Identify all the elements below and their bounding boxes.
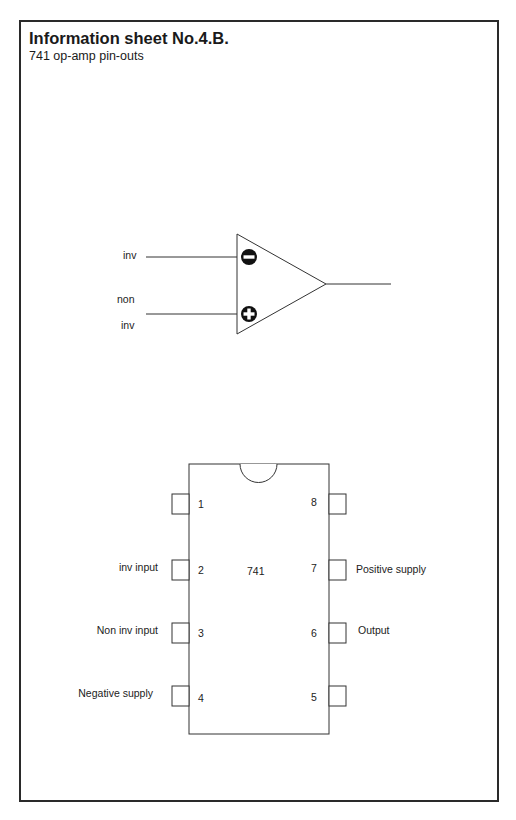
pin-label-4: Negative supply: [78, 687, 153, 699]
pin-label-2: inv input: [119, 561, 158, 573]
inv-label: inv: [123, 249, 137, 261]
opamp-symbol: [146, 234, 391, 334]
pin-number-8: 8: [311, 496, 317, 508]
chip-name: 741: [247, 565, 265, 577]
pin-number-5: 5: [311, 691, 317, 703]
pin-number-1: 1: [198, 498, 204, 510]
noninv-label: inv: [121, 319, 135, 331]
pin-label-3: Non inv input: [97, 624, 158, 636]
pin-number-3: 3: [198, 627, 204, 639]
pin-label-6: Output: [358, 624, 390, 636]
pin-number-4: 4: [198, 692, 204, 704]
pin-7: [329, 560, 346, 580]
pin-2: [172, 560, 189, 580]
diagram-canvas: inv non inv 741 1 2 3 4 5 6 7 8 inv inpu…: [0, 0, 516, 820]
plus-icon: [241, 306, 257, 322]
minus-icon: [241, 249, 257, 265]
pin-number-2: 2: [198, 564, 204, 576]
pin-4: [172, 686, 189, 706]
pin-6: [329, 623, 346, 643]
pin-number-6: 6: [311, 627, 317, 639]
pin-label-7: Positive supply: [356, 563, 427, 575]
pin-1: [172, 494, 189, 514]
pin-8: [329, 494, 346, 514]
pin-5: [329, 686, 346, 706]
non-label: non: [117, 293, 135, 305]
pin-number-7: 7: [311, 562, 317, 574]
pin-3: [172, 623, 189, 643]
